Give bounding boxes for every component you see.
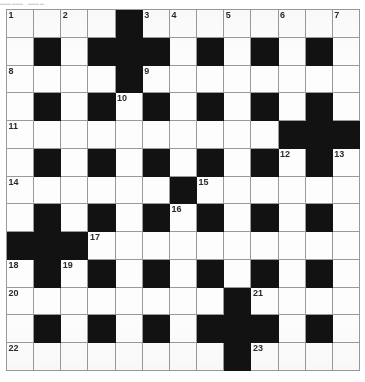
crossword-cell[interactable]	[224, 177, 251, 205]
crossword-cell[interactable]	[34, 288, 61, 316]
crossword-cell[interactable]: 14	[7, 177, 34, 205]
crossword-cell[interactable]	[170, 149, 197, 177]
crossword-cell[interactable]	[306, 288, 333, 316]
crossword-cell[interactable]	[333, 177, 360, 205]
crossword-cell[interactable]	[61, 204, 88, 232]
crossword-cell[interactable]: 22	[7, 343, 34, 371]
crossword-cell[interactable]	[279, 315, 306, 343]
crossword-cell[interactable]	[61, 343, 88, 371]
crossword-cell[interactable]	[61, 315, 88, 343]
crossword-cell[interactable]	[170, 315, 197, 343]
crossword-cell[interactable]	[61, 121, 88, 149]
crossword-cell[interactable]	[224, 38, 251, 66]
crossword-cell[interactable]	[197, 288, 224, 316]
crossword-cell[interactable]: 19	[61, 260, 88, 288]
crossword-cell[interactable]	[61, 288, 88, 316]
crossword-cell[interactable]	[7, 315, 34, 343]
crossword-cell[interactable]	[116, 232, 143, 260]
crossword-cell[interactable]	[143, 343, 170, 371]
crossword-cell[interactable]	[116, 260, 143, 288]
crossword-cell[interactable]	[306, 10, 333, 38]
crossword-cell[interactable]	[251, 232, 278, 260]
crossword-cell[interactable]	[116, 288, 143, 316]
crossword-cell[interactable]	[170, 38, 197, 66]
crossword-cell[interactable]	[197, 121, 224, 149]
crossword-cell[interactable]	[61, 149, 88, 177]
crossword-cell[interactable]	[251, 10, 278, 38]
crossword-cell[interactable]	[116, 177, 143, 205]
crossword-cell[interactable]	[61, 38, 88, 66]
crossword-cell[interactable]	[333, 343, 360, 371]
crossword-cell[interactable]	[170, 343, 197, 371]
crossword-cell[interactable]	[251, 121, 278, 149]
crossword-cell[interactable]: 2	[61, 10, 88, 38]
crossword-cell[interactable]	[279, 204, 306, 232]
crossword-cell[interactable]	[197, 343, 224, 371]
crossword-cell[interactable]	[224, 149, 251, 177]
crossword-cell[interactable]: 4	[170, 10, 197, 38]
crossword-grid[interactable]: 1234567891011121314151617181920212223	[6, 9, 360, 371]
crossword-cell[interactable]	[333, 38, 360, 66]
crossword-cell[interactable]	[170, 121, 197, 149]
crossword-cell[interactable]	[279, 38, 306, 66]
crossword-cell[interactable]: 18	[7, 260, 34, 288]
crossword-cell[interactable]	[224, 66, 251, 94]
crossword-cell[interactable]	[116, 121, 143, 149]
crossword-cell[interactable]	[170, 288, 197, 316]
crossword-cell[interactable]	[197, 10, 224, 38]
crossword-cell[interactable]: 17	[88, 232, 115, 260]
crossword-cell[interactable]: 12	[279, 149, 306, 177]
crossword-cell[interactable]: 21	[251, 288, 278, 316]
crossword-cell[interactable]	[333, 93, 360, 121]
crossword-cell[interactable]	[224, 204, 251, 232]
crossword-cell[interactable]	[170, 232, 197, 260]
crossword-cell[interactable]	[143, 288, 170, 316]
crossword-cell[interactable]	[116, 149, 143, 177]
crossword-cell[interactable]	[279, 260, 306, 288]
crossword-cell[interactable]	[34, 177, 61, 205]
crossword-cell[interactable]	[251, 177, 278, 205]
crossword-cell[interactable]	[34, 10, 61, 38]
crossword-cell[interactable]	[279, 93, 306, 121]
crossword-cell[interactable]	[333, 315, 360, 343]
crossword-cell[interactable]: 10	[116, 93, 143, 121]
crossword-cell[interactable]	[7, 149, 34, 177]
crossword-cell[interactable]: 3	[143, 10, 170, 38]
crossword-cell[interactable]: 9	[143, 66, 170, 94]
crossword-cell[interactable]	[88, 288, 115, 316]
crossword-cell[interactable]	[279, 232, 306, 260]
crossword-cell[interactable]	[306, 66, 333, 94]
crossword-cell[interactable]	[143, 232, 170, 260]
crossword-cell[interactable]	[333, 204, 360, 232]
crossword-cell[interactable]	[279, 288, 306, 316]
crossword-cell[interactable]	[7, 93, 34, 121]
crossword-cell[interactable]	[116, 204, 143, 232]
crossword-cell[interactable]: 20	[7, 288, 34, 316]
crossword-cell[interactable]	[333, 288, 360, 316]
crossword-cell[interactable]	[170, 93, 197, 121]
crossword-cell[interactable]: 23	[251, 343, 278, 371]
crossword-cell[interactable]: 13	[333, 149, 360, 177]
crossword-cell[interactable]: 16	[170, 204, 197, 232]
crossword-cell[interactable]	[88, 177, 115, 205]
crossword-cell[interactable]	[224, 93, 251, 121]
crossword-cell[interactable]	[7, 204, 34, 232]
crossword-cell[interactable]: 11	[7, 121, 34, 149]
crossword-cell[interactable]	[333, 232, 360, 260]
crossword-cell[interactable]	[333, 66, 360, 94]
crossword-cell[interactable]: 7	[333, 10, 360, 38]
crossword-cell[interactable]	[306, 177, 333, 205]
crossword-cell[interactable]	[306, 232, 333, 260]
crossword-cell[interactable]	[34, 66, 61, 94]
crossword-cell[interactable]	[7, 38, 34, 66]
crossword-cell[interactable]	[224, 121, 251, 149]
crossword-cell[interactable]	[34, 343, 61, 371]
crossword-cell[interactable]	[224, 260, 251, 288]
crossword-cell[interactable]	[197, 232, 224, 260]
crossword-cell[interactable]	[143, 121, 170, 149]
crossword-cell[interactable]	[279, 177, 306, 205]
crossword-cell[interactable]	[170, 260, 197, 288]
crossword-cell[interactable]	[88, 66, 115, 94]
crossword-cell[interactable]	[116, 315, 143, 343]
crossword-cell[interactable]: 6	[279, 10, 306, 38]
